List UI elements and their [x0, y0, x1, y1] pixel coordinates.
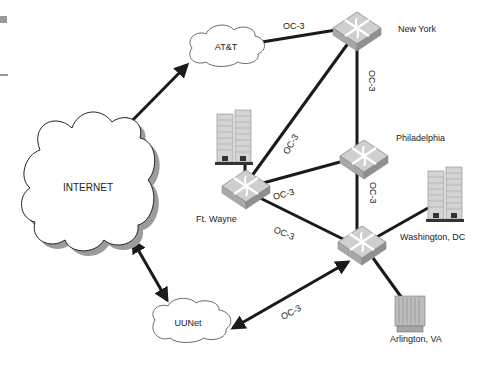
link-ftwayne-washington	[256, 196, 345, 240]
label-washington-dc: Washington, DC	[400, 232, 466, 242]
label-new-york: New York	[398, 24, 437, 34]
cloud-internet: INTERNET	[22, 112, 160, 256]
link-internet-uunet	[133, 241, 167, 300]
label-philadelphia: Philadelphia	[396, 133, 445, 143]
building-ft-wayne-icon	[215, 110, 253, 165]
router-philadelphia	[340, 140, 388, 179]
link-label-newyork-washington: OC-3	[367, 70, 377, 92]
link-att-newyork	[262, 30, 336, 42]
network-diagram: INTERNET AT&T UUNet New York Philadelphi…	[0, 0, 491, 366]
cloud-label-att: AT&T	[215, 42, 238, 52]
label-arlington-va: Arlington, VA	[390, 334, 442, 344]
link-label-ftwayne-washington: OC-3	[272, 225, 296, 242]
label-ft-wayne: Ft. Wayne	[196, 214, 237, 224]
router-new-york	[333, 12, 381, 51]
building-arlington-icon	[395, 296, 425, 332]
router-ft-wayne	[222, 170, 270, 209]
cloud-label-uunet: UUNet	[174, 318, 202, 328]
cloud-label-internet: INTERNET	[63, 182, 113, 193]
link-label-att-newyork: OC-3	[283, 21, 305, 31]
link-label-ftwayne-philadelphia: OC-3	[272, 187, 295, 202]
building-washington-dc-icon	[426, 167, 464, 222]
link-label-philadelphia-washington: OC-3	[368, 182, 378, 204]
cloud-uunet: UUNet	[153, 298, 231, 342]
router-washington-dc	[338, 226, 386, 265]
cloud-att: AT&T	[190, 25, 265, 66]
link-label-uunet-washington: OC-3	[279, 303, 303, 322]
link-label-newyork-ftwayne: OC-3	[281, 132, 300, 156]
margin-mark	[0, 16, 7, 23]
